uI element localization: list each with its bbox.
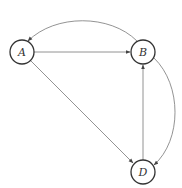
node-a: A [10,40,34,64]
edge-a-to-d [31,61,133,163]
edge-b-to-a [28,21,137,41]
graph-diagram: A B D [0,0,182,188]
node-d: D [131,160,155,184]
edge-b-to-d [154,58,175,165]
node-b-label: B [138,46,147,59]
node-d-label: D [138,166,148,179]
node-b: B [131,40,155,64]
edges [28,21,175,165]
node-a-label: A [17,46,26,59]
